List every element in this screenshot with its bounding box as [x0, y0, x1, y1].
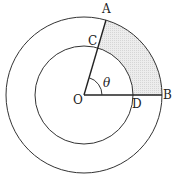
label-D: D [132, 97, 142, 111]
label-theta: θ [103, 76, 111, 90]
label-A: A [101, 2, 111, 16]
label-B: B [163, 88, 172, 102]
label-O: O [73, 93, 83, 107]
label-C: C [88, 34, 97, 48]
angle-arc [89, 78, 102, 95]
diagram-canvas: A C θ O D B [0, 0, 172, 177]
